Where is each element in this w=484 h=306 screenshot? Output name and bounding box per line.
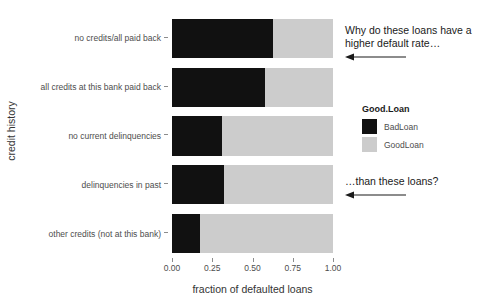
left-arrow-icon — [345, 52, 481, 65]
annotation-bottom-text: …than these loans? — [345, 175, 438, 187]
y-tick-row: no credits/all paid back — [20, 14, 168, 63]
legend-swatch-badloan — [362, 119, 377, 134]
y-tick-label: delinquencies in past — [82, 180, 161, 190]
annotation-top-text: Why do these loans have a higher default… — [345, 24, 472, 49]
bar-segment-goodloan[interactable] — [222, 116, 333, 155]
x-tick-mark-icon — [293, 258, 294, 262]
y-tick-mark-icon — [164, 183, 168, 184]
plot-panel — [172, 14, 333, 258]
bar-row — [172, 112, 333, 161]
x-tick-mark-icon — [172, 258, 173, 262]
y-tick-label: other credits (not at this bank) — [49, 229, 161, 239]
bar-segment-goodloan[interactable] — [224, 165, 333, 204]
y-tick-row: no current delinquencies — [20, 112, 168, 161]
legend-item-badloan[interactable]: BadLoan — [362, 119, 477, 134]
bar-segment-badloan[interactable] — [172, 214, 200, 253]
x-tick-mark-icon — [212, 258, 213, 262]
legend: Good.Loan BadLoan GoodLoan — [362, 104, 477, 155]
y-axis-title-label: credit history — [5, 101, 17, 161]
legend-swatch-goodloan — [362, 137, 377, 152]
bar-row — [172, 63, 333, 112]
bar-row — [172, 160, 333, 209]
bar-track — [172, 116, 333, 155]
y-tick-label: no credits/all paid back — [75, 33, 161, 43]
left-arrow-icon — [345, 190, 481, 203]
x-axis-title: fraction of defaulted loans — [172, 283, 333, 295]
x-tick-label: 0.50 — [244, 263, 261, 273]
y-tick-mark-icon — [164, 37, 168, 38]
legend-title: Good.Loan — [362, 104, 477, 114]
y-axis-title: credit history — [2, 0, 20, 262]
y-tick-mark-icon — [164, 134, 168, 135]
x-tick-label: 0.75 — [284, 263, 301, 273]
bar-track — [172, 214, 333, 253]
bar-row — [172, 14, 333, 63]
bar-segment-goodloan[interactable] — [265, 68, 333, 107]
y-axis-tick-labels: no credits/all paid back all credits at … — [20, 14, 168, 258]
bar-segment-badloan[interactable] — [172, 165, 224, 204]
bar-segment-badloan[interactable] — [172, 68, 265, 107]
bar-row — [172, 209, 333, 258]
bar-track — [172, 165, 333, 204]
bar-segment-badloan[interactable] — [172, 116, 222, 155]
y-tick-label: all credits at this bank paid back — [41, 82, 161, 92]
bar-segment-goodloan[interactable] — [200, 214, 333, 253]
y-tick-row: all credits at this bank paid back — [20, 63, 168, 112]
y-tick-row: delinquencies in past — [20, 160, 168, 209]
bar-segment-goodloan[interactable] — [273, 19, 333, 58]
legend-label-badloan: BadLoan — [384, 122, 418, 132]
bar-track — [172, 19, 333, 58]
x-tick-label: 0.00 — [164, 263, 181, 273]
bar-segment-badloan[interactable] — [172, 19, 273, 58]
x-axis: 0.000.250.500.751.00 — [172, 258, 333, 280]
annotation-top: Why do these loans have a higher default… — [345, 24, 481, 65]
y-tick-row: other credits (not at this bank) — [20, 209, 168, 258]
y-tick-mark-icon — [164, 86, 168, 87]
legend-item-goodloan[interactable]: GoodLoan — [362, 137, 477, 152]
x-tick-mark-icon — [253, 258, 254, 262]
bar-track — [172, 68, 333, 107]
y-tick-mark-icon — [164, 232, 168, 233]
annotation-bottom: …than these loans? — [345, 175, 481, 203]
y-tick-label: no current delinquencies — [68, 131, 161, 141]
x-tick-label: 0.25 — [204, 263, 221, 273]
legend-label-goodloan: GoodLoan — [384, 140, 424, 150]
x-tick-label: 1.00 — [325, 263, 342, 273]
x-tick-mark-icon — [333, 258, 334, 262]
